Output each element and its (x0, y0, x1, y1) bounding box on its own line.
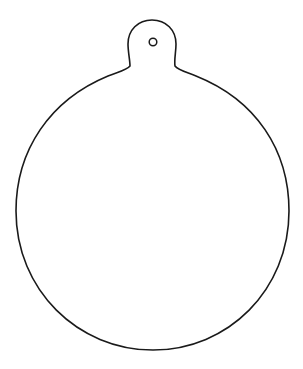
ornament-outline (16, 20, 289, 350)
hanging-hole-icon (149, 38, 157, 46)
ornament-drawing (0, 0, 303, 369)
